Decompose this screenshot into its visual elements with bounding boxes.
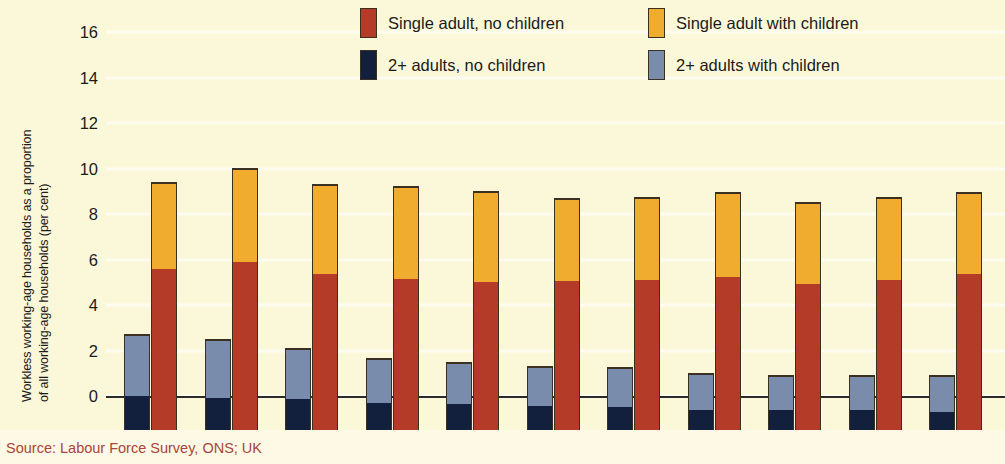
chart-figure: Workless working-age households as a pro…	[0, 0, 1005, 464]
bar-group-1999: 1999	[446, 68, 502, 464]
y-axis-ticks: 0246810121416	[58, 0, 98, 464]
bar-group-2001: 2001	[607, 68, 663, 464]
bar-segment-single_with_children-1996	[233, 169, 257, 262]
bar-group-2004: 2004	[849, 68, 905, 464]
y-tick-label-2: 2	[60, 341, 98, 360]
legend-swatch-bluegrey-icon	[648, 50, 665, 80]
bar-group-2005: 2005	[929, 68, 985, 464]
y-tick-label-14: 14	[60, 68, 98, 87]
legend-swatch-yellow-icon	[648, 8, 665, 38]
legend-item-3[interactable]: 2+ adults, no children	[360, 50, 545, 80]
bar-segment-single_with_children-1998	[394, 187, 418, 278]
legend-label: 2+ adults, no children	[388, 56, 545, 75]
bar-segment-single_with_children-2005	[957, 193, 981, 274]
bar-single-adult-1998[interactable]	[393, 186, 419, 464]
bar-group-1997: 1997	[285, 68, 341, 464]
bar-group-1996: 1996	[205, 68, 261, 464]
source-note: Source: Labour Force Survey, ONS; UK	[6, 440, 262, 456]
legend-swatch-navy-icon	[360, 50, 377, 80]
bar-segment-multi_with_children-2003	[769, 376, 793, 409]
bar-single-adult-1997[interactable]	[312, 184, 338, 464]
bar-segment-single_with_children-1995	[152, 183, 176, 269]
bar-single-adult-2003[interactable]	[795, 202, 821, 464]
bar-segment-multi_with_children-1995	[125, 335, 149, 395]
source-bar: Source: Labour Force Survey, ONS; UK	[0, 430, 1005, 464]
y-axis-title-line1: Workless working-age households as a pro…	[20, 130, 34, 402]
bar-single-adult-1999[interactable]	[473, 191, 499, 464]
bar-segment-multi_with_children-2004	[850, 376, 874, 409]
bar-segment-single_with_children-2003	[796, 203, 820, 283]
bar-segment-multi_with_children-1996	[206, 340, 230, 398]
y-tick-label-4: 4	[60, 296, 98, 315]
bar-segment-multi_with_children-2005	[930, 376, 954, 412]
legend-item-2[interactable]: Single adult with children	[648, 8, 859, 38]
y-tick-label-6: 6	[60, 250, 98, 269]
bar-segment-single_with_children-1999	[474, 192, 498, 282]
y-tick-label-12: 12	[60, 114, 98, 133]
bar-segment-multi_with_children-1997	[286, 349, 310, 399]
bar-single-adult-2005[interactable]	[956, 192, 982, 464]
bar-single-adult-2002[interactable]	[715, 192, 741, 464]
y-tick-label-0: 0	[60, 387, 98, 406]
y-axis-title-line2: of all working-age households (per cent)	[37, 184, 51, 402]
bar-segment-single_with_children-2004	[877, 198, 901, 280]
bar-segment-multi_with_children-1998	[367, 359, 391, 403]
y-tick-label-10: 10	[60, 159, 98, 178]
bar-group-2002: 2002	[688, 68, 744, 464]
y-axis-title: Workless working-age households as a pro…	[0, 0, 56, 420]
bar-segment-single_with_children-2002	[716, 193, 740, 277]
bar-segment-multi_with_children-1999	[447, 363, 471, 404]
bar-single-adult-1996[interactable]	[232, 168, 258, 464]
legend-label: Single adult with children	[676, 14, 859, 33]
bar-segment-multi_with_children-2002	[689, 374, 713, 410]
bar-group-2000: 2000	[527, 68, 583, 464]
y-tick-label-16: 16	[60, 23, 98, 42]
bar-group-1998: 1998	[366, 68, 422, 464]
legend-label: Single adult, no children	[388, 14, 564, 33]
bar-segment-single_with_children-2001	[635, 198, 659, 280]
legend-item-4[interactable]: 2+ adults with children	[648, 50, 840, 80]
bar-single-adult-2000[interactable]	[554, 198, 580, 464]
bar-segment-multi_with_children-2000	[528, 367, 552, 406]
bar-segment-single_with_children-1997	[313, 185, 337, 274]
legend-swatch-red-icon	[360, 8, 377, 38]
bar-single-adult-1995[interactable]	[151, 182, 177, 464]
legend-item-1[interactable]: Single adult, no children	[360, 8, 564, 38]
bar-group-2003: 2003	[768, 68, 824, 464]
bar-segment-multi_with_children-2001	[608, 368, 632, 407]
bar-group-1995: 1995	[124, 68, 180, 464]
bar-single-adult-2004[interactable]	[876, 197, 902, 464]
y-tick-label-8: 8	[60, 205, 98, 224]
legend-label: 2+ adults with children	[676, 56, 840, 75]
bar-segment-single_with_children-2000	[555, 199, 579, 281]
chart-legend: Single adult, no childrenSingle adult wi…	[360, 8, 1000, 82]
bar-single-adult-2001[interactable]	[634, 197, 660, 464]
